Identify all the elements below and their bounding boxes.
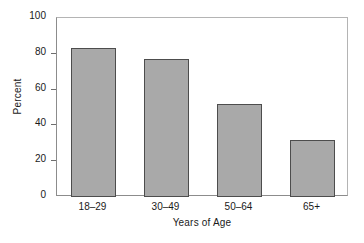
y-tick-label: 80: [35, 46, 46, 57]
x-tick-label: 65+: [272, 201, 352, 212]
bar-chart: Percent 020406080100 18–2930–4950–6465+ …: [0, 0, 364, 243]
x-axis-title: Years of Age: [56, 217, 348, 228]
plot-area: [56, 17, 348, 196]
bar: [144, 59, 189, 197]
bar: [217, 104, 262, 197]
y-tick-label: 20: [35, 153, 46, 164]
y-axis-title: Percent: [9, 7, 26, 186]
x-tick-label: 30–49: [126, 201, 206, 212]
bar: [290, 140, 335, 197]
y-tick-label: 60: [35, 82, 46, 93]
bar: [71, 48, 116, 197]
x-tick-label: 50–64: [199, 201, 279, 212]
y-tick-label: 0: [40, 189, 46, 200]
y-tick-label: 100: [29, 10, 46, 21]
y-tick-label: 40: [35, 117, 46, 128]
x-tick-label: 18–29: [53, 201, 133, 212]
